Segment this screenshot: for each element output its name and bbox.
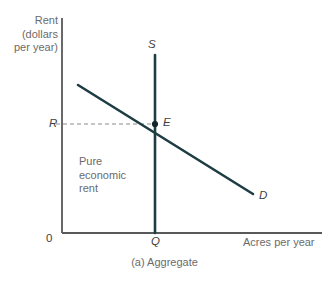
supply-curve-label: S [148,38,156,51]
quantity-tick-label: Q [151,235,160,248]
origin-label: 0 [46,232,52,245]
y-axis-label: Rent (dollars per year) [6,14,58,55]
equilibrium-point-label: E [163,116,171,129]
economics-figure: Rent (dollars per year) Acres per year P… [0,0,329,282]
equilibrium-point-marker [152,121,158,127]
demand-curve-label: D [259,189,267,202]
x-axis-label: Acres per year [243,236,315,250]
pure-economic-rent-label: Pure economic rent [79,155,126,196]
rent-level-tick-label: R [49,117,57,130]
figure-caption: (a) Aggregate [0,256,329,270]
